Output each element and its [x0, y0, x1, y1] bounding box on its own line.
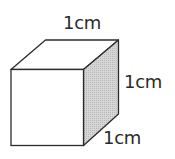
top-edge-label: 1cm: [63, 14, 101, 32]
cube-front-face: [11, 70, 84, 146]
right-edge-label: 1cm: [124, 73, 162, 91]
depth-edge-label: 1cm: [103, 129, 141, 147]
